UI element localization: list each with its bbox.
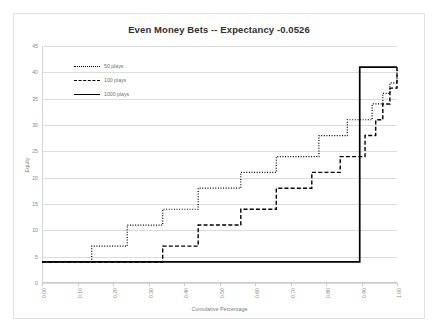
- y-tick-label: 5: [35, 254, 38, 260]
- legend-item[interactable]: 1000 plays: [74, 90, 129, 98]
- legend-label: 100 plays: [104, 77, 126, 83]
- legend-item[interactable]: 100 plays: [74, 76, 129, 84]
- y-axis-label-text: Equity: [24, 157, 30, 172]
- y-tick-label: 10: [32, 227, 38, 233]
- x-tick-label: 0.20: [112, 288, 118, 298]
- x-tick-label: 0.60: [254, 288, 260, 298]
- x-tick-label: 0.70: [290, 288, 296, 298]
- legend-swatch-dashed-icon: [74, 80, 100, 81]
- legend-label: 50 plays: [104, 63, 123, 69]
- y-tick-label: 30: [32, 122, 38, 128]
- x-tick-mark: [78, 283, 79, 286]
- x-tick-mark: [220, 283, 221, 286]
- x-tick-mark: [42, 283, 43, 286]
- y-tick-label: 35: [32, 96, 38, 102]
- x-tick-label: 0.50: [219, 288, 225, 298]
- x-tick-mark: [255, 283, 256, 286]
- x-tick-label: 0.90: [361, 288, 367, 298]
- y-tick-label: 45: [32, 43, 38, 49]
- y-tick-label: 40: [32, 69, 38, 75]
- legend-label: 1000 plays: [104, 91, 129, 97]
- y-tick-label: 15: [32, 201, 38, 207]
- x-tick-label: 0.80: [325, 288, 331, 298]
- x-tick-mark: [149, 283, 150, 286]
- legend-item[interactable]: 50 plays: [74, 62, 129, 70]
- y-axis-label: Equity: [20, 46, 35, 283]
- y-tick-label: 0: [35, 280, 38, 286]
- y-tick-label: 25: [32, 148, 38, 154]
- x-tick-label: 0.30: [148, 288, 154, 298]
- y-tick-label: 20: [32, 175, 38, 181]
- legend-swatch-solid-icon: [74, 94, 100, 95]
- x-tick-mark: [326, 283, 327, 286]
- x-tick-label: 0.40: [183, 288, 189, 298]
- x-tick-label: 0.00: [41, 288, 47, 298]
- legend-swatch-dotted-icon: [74, 66, 100, 67]
- x-tick-mark: [184, 283, 185, 286]
- x-tick-mark: [397, 283, 398, 286]
- chart-title: Even Money Bets -- Expectancy -0.0526: [13, 24, 425, 35]
- x-tick-label: 0.10: [77, 288, 83, 298]
- x-axis-label: Cumulative Percentage: [42, 306, 397, 312]
- x-tick-label: 1.00: [396, 288, 402, 298]
- x-tick-mark: [291, 283, 292, 286]
- chart-legend: 50 plays100 plays1000 plays: [74, 62, 129, 98]
- chart-page: Even Money Bets -- Expectancy -0.0526 Eq…: [0, 0, 439, 333]
- x-tick-mark: [113, 283, 114, 286]
- x-tick-mark: [362, 283, 363, 286]
